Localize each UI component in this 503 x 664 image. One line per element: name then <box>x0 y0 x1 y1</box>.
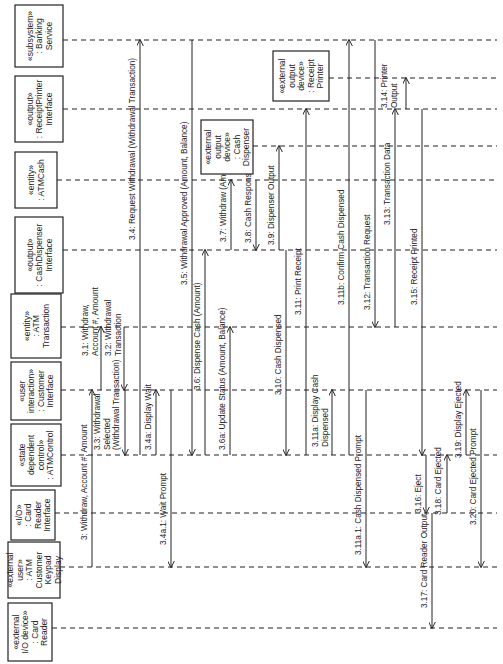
message: 3.6: Dispense Cash (Amount) <box>193 250 205 455</box>
object-keypad: «externaluser»: ATMCustomerKeypadDisplay <box>5 542 63 598</box>
message-label: 3.12: Transaction Request <box>363 214 372 310</box>
message-label: 3.11: Print Receipt <box>294 248 303 315</box>
message: 3.20: Card Ejected Prompt <box>469 390 481 567</box>
message: 3.12: Transaction Request <box>363 40 375 327</box>
message: 3.8: Cash Response <box>244 168 256 250</box>
message-label: 3.1: Withdraw,Account #, Amount <box>81 287 100 356</box>
message: 3.13: Transaction Data <box>383 109 395 327</box>
message: 3.1: Withdraw,Account #, Amount <box>81 287 101 390</box>
object-rpi: «output»: ReceiptPrinterInterface <box>15 76 63 142</box>
message-label: 3.10: Cash Dispensed <box>274 314 283 395</box>
message-label: 3.20: Card Ejected Prompt <box>469 428 478 525</box>
message: 3.18: Card Ejected <box>434 447 447 515</box>
message-label: 3.5: Withdrawal Approved (Amount, Balanc… <box>180 121 189 285</box>
object-cash: «entity»: ATMCash <box>15 152 57 208</box>
message-label: 3.4: Request Withdrawal (Withdrawal Tran… <box>128 58 137 240</box>
message: 3.16: Eject <box>414 455 426 513</box>
object-printer: «externaloutputdevice»: ReceiptPrinter <box>273 51 329 101</box>
message: 3.6a: Update Status (Amount, Balance) <box>218 307 230 455</box>
object-cri: «I/O»: CardReaderInterface <box>11 490 55 540</box>
object-bank: «subsystem»: BankingService <box>15 5 63 67</box>
message: 3.11a.1: Cash Dispensed Prompt <box>354 390 366 567</box>
message: 3.11b: Confirm Cash Dispensed <box>337 40 349 455</box>
object-dispenser: «externaloutputdevice»: CashDispenser <box>201 120 253 174</box>
message: 3.3: WithdrawalSelected(Withdrawal Trans… <box>93 359 125 455</box>
message-label: 3.19: Display Ejected <box>454 381 463 458</box>
message: 3.10: Cash Dispensed <box>274 250 286 455</box>
message: 3.9: Dispenser Output <box>267 146 279 250</box>
message: 3.5: Withdrawal Approved (Amount, Balanc… <box>180 40 192 455</box>
message-label: 3.6a: Update Status (Amount, Balance) <box>218 307 227 450</box>
message: 3.4a: Display Wait <box>144 384 156 455</box>
message: 3.4a.1: Wait Prompt <box>159 390 171 567</box>
message-label: 3.11a.1: Cash Dispensed Prompt <box>354 434 363 555</box>
message-label: 3.11a: Display CashDispensed <box>311 374 330 447</box>
messages: 3: Withdraw, Account #, Amount3.1: Withd… <box>80 40 481 628</box>
message-label: 3.4a: Display Wait <box>144 384 153 450</box>
message: 3.4: Request Withdrawal (Withdrawal Tran… <box>128 40 140 455</box>
sequence-diagram: 3: Withdraw, Account #, Amount3.1: Withd… <box>0 0 503 664</box>
message: 3.11a: Display CashDispensed <box>311 374 332 455</box>
message-label: 3.9: Dispenser Output <box>267 165 276 245</box>
message-label: 3.14: PrinterOutput <box>380 63 399 108</box>
message: 3.17: Card Reader Output <box>420 513 432 628</box>
message-label: 3.2: WithdrawalTransaction <box>104 299 123 356</box>
message-label: 3.18: Card Ejected <box>434 447 443 515</box>
message: 3.11: Print Receipt <box>294 109 306 455</box>
message: 3.14: PrinterOutput <box>380 63 406 109</box>
object-ci: «userinteraction»: CustomerInterface <box>11 362 61 420</box>
object-label: «entity»: ATMCash <box>26 159 46 201</box>
message: 3.15: Receipt Printed <box>410 109 422 455</box>
message-label: 3.8: Cash Response <box>244 168 253 243</box>
object-ctrl: «statedependentcontrol»: ATMControl <box>11 424 61 486</box>
message-label: 3.3: WithdrawalSelected(Withdrawal Trans… <box>93 359 121 450</box>
object-trans: «entity»: ATMTransaction <box>11 294 61 358</box>
message-label: 3.17: Card Reader Output <box>420 513 429 608</box>
object-label: «externaloutputdevice»: CashDispenser <box>203 128 251 166</box>
object-label: «externaluser»: ATMCustomerKeypadDisplay <box>5 551 63 588</box>
message-label: 3.4a.1: Wait Prompt <box>159 472 168 545</box>
object-cdi: «output»: CashDispenserInterface <box>15 217 63 293</box>
object-label: «externaloutputdevice»: ReceiptPrinter <box>277 58 325 93</box>
message-label: 3.16: Eject <box>414 474 423 513</box>
message: 3: Withdraw, Account #, Amount <box>80 390 92 567</box>
message-label: 3: Withdraw, Account #, Amount <box>80 424 89 540</box>
message-label: 3.13: Transaction Data <box>383 142 392 225</box>
message: 3.19: Display Ejected <box>454 381 466 458</box>
message-label: 3.15: Receipt Printed <box>410 228 419 305</box>
message-label: 3.6: Dispense Cash (Amount) <box>193 282 202 390</box>
object-reader: «externalI/O device»: CardReader <box>8 603 52 661</box>
message-label: 3.11b: Confirm Cash Dispensed <box>337 189 346 305</box>
